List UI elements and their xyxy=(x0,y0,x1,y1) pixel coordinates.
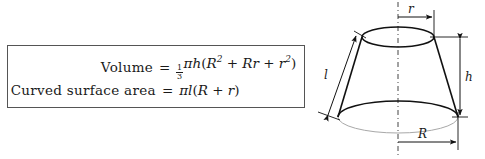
formula-label-curved-surface-area: Curved surface area xyxy=(8,84,156,98)
formula-rows: Volume = 13πh(R2 + Rr + r2) Curved surfa… xyxy=(8,46,304,107)
frustum-diagram: r h l R xyxy=(312,0,485,159)
formula-box: Volume = 13πh(R2 + Rr + r2) Curved surfa… xyxy=(7,45,305,108)
label-slant-height: l xyxy=(324,68,328,82)
fraction-numerator: 1 xyxy=(176,64,183,72)
formula-label-volume: Volume xyxy=(8,61,153,75)
variable-h: h xyxy=(192,55,201,71)
label-top-radius: r xyxy=(408,2,415,16)
formula-row-curved-surface-area: Curved surface area = πl(R + r) xyxy=(8,84,294,98)
plus-sign-area: + xyxy=(212,82,223,98)
label-height: h xyxy=(465,70,473,84)
formula-equals-curved-surface-area: = xyxy=(156,84,179,98)
formula-equals-volume: = xyxy=(153,61,176,75)
variable-R-area: R xyxy=(198,82,208,98)
pi-symbol-area: π xyxy=(179,82,188,98)
formula-expression-volume: 13πh(R2 + Rr + r2) xyxy=(176,55,294,81)
plus-sign-1: + xyxy=(227,55,238,71)
close-paren-volume: ) xyxy=(291,55,296,71)
variable-R-squared: R xyxy=(206,55,216,71)
variable-R-term: R xyxy=(242,55,252,71)
formula-expression-curved-surface-area: πl(R + r) xyxy=(179,84,294,98)
formula-row-volume: Volume = 13πh(R2 + Rr + r2) xyxy=(8,55,294,81)
fraction-one-third: 13 xyxy=(176,64,183,81)
fraction-denominator: 3 xyxy=(176,73,183,81)
close-paren-area: ) xyxy=(234,82,239,98)
label-bottom-radius: R xyxy=(417,127,427,141)
plus-sign-2: + xyxy=(263,55,274,71)
